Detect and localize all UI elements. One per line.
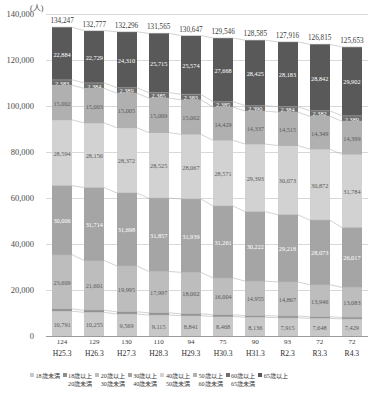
bar-segment: 17,997 [149,271,169,312]
segment-value-label: 23,609 [53,278,70,285]
segment-value-label: 13,946 [311,297,328,304]
sub-count-label: 129 [89,338,100,346]
bar-column: 25,5742,38315,00228,06731,93918,0028,841 [181,36,201,336]
bar-segment: 28,842 [310,44,330,110]
segment-value-label: 29,902 [343,78,360,85]
bar-column: 22,8842,38315,00228,59430,00623,60910,79… [52,27,72,336]
bar-segment: 28,571 [213,140,233,206]
legend-label-top: 18歳未満 [36,372,60,380]
sub-count-label: 124 [57,338,68,346]
segment-value-label: 28,842 [311,74,328,81]
bar-segment: 30,222 [245,212,265,282]
segment-value-label: 28,156 [86,152,103,159]
legend-item[interactable]: 18歳未満 [30,372,60,380]
segment-value-label: 29,393 [247,174,264,181]
legend-item[interactable]: 50歳以上60歳未満 [193,372,223,388]
sub-count-label: 72 [348,338,355,346]
segment-value-label: 7,429 [345,324,359,331]
bar-segment: 29,393 [245,144,265,212]
y-axis-tick-label: 60,000 [0,193,34,203]
segment-value-label: 14,515 [279,125,296,132]
legend-item[interactable]: 20歳以上30歳未満 [95,372,125,388]
bar-total-label: 134,247 [50,17,73,25]
bar-segment: 15,002 [52,85,72,120]
segment-value-label: 9,569 [119,322,133,329]
x-axis-tick-label: H26.3 [85,349,104,358]
segment-value-label: 7,915 [280,323,294,330]
bar-segment: 22,729 [84,31,104,83]
y-axis-tick-label: 40,000 [0,239,34,249]
bar-segment: 15,005 [117,93,137,128]
segment-value-label: 28,372 [118,157,135,164]
segment-value-label: 10,255 [86,321,103,328]
legend-label-top: 40歳以上 [166,372,190,380]
bar-column: 22,7292,38415,00328,15631,71421,60110,25… [84,31,104,336]
sub-count-label: 75 [220,338,227,346]
segment-value-label: 15,002 [53,99,70,106]
bar-column: 28,8422,38214,34930,87228,07313,9467,648 [310,44,330,336]
bar-segment: 18,002 [181,272,201,313]
segment-value-label: 25,715 [150,60,167,67]
segment-value-label: 28,594 [53,149,70,156]
bar-segment: 27,668 [213,38,233,102]
legend-item[interactable]: 65歳以上 [258,372,288,380]
bar-segment: 15,002 [181,100,201,135]
bar-segment: 9,115 [149,315,169,336]
x-axis-tick-label: H25.3 [53,349,72,358]
bar-segment: 30,006 [52,186,72,255]
legend-item[interactable]: 60歳以上65歳未満 [226,372,256,388]
legend-label-top: 18歳以上 [68,372,92,380]
legend-item[interactable]: 40歳以上50歳未満 [160,372,190,388]
legend-swatch-icon [30,373,34,377]
bar-total-label: 132,777 [83,21,106,29]
gridline [46,14,368,15]
segment-value-label: 30,006 [53,217,70,224]
legend-label: 18歳以上20歳未満 [68,372,92,388]
bar-segment: 23,609 [52,255,72,309]
y-axis-tick-label: 0 [0,331,34,341]
legend-label: 60歳以上65歳未満 [231,372,255,388]
segment-value-label: 28,067 [182,163,199,170]
bar-segment: 8,136 [245,317,265,336]
segment-value-label: 27,668 [214,66,231,73]
y-axis-tick-label: 140,000 [0,9,34,19]
sub-count-label: 90 [252,338,259,346]
bar-segment: 7,429 [342,319,362,336]
plot-area: 140,000120,000100,00080,00060,00040,0002… [46,14,368,336]
legend-label-top: 65歳以上 [264,372,288,380]
segment-value-label: 28,525 [150,162,167,169]
bar-segment: 14,337 [245,111,265,144]
bar-total-label: 131,565 [147,23,170,31]
x-axis-tick-label: H29.3 [182,349,201,358]
bar-segment: 15,009 [149,98,169,133]
segment-value-label: 14,337 [247,124,264,131]
bar-segment: 14,515 [278,112,298,145]
bar-column: 25,7152,38515,00928,52531,85717,9979,115 [149,33,169,336]
segment-value-label: 31,261 [214,239,231,246]
x-axis-tick-label: R2.3 [280,349,295,358]
gridline [46,336,368,337]
bar-segment: 13,083 [342,287,362,317]
legend-label: 65歳以上 [264,372,288,380]
segment-value-label: 13,083 [343,299,360,306]
segment-value-label: 31,939 [182,232,199,239]
segment-value-label: 8,841 [184,322,198,329]
segment-value-label: 22,729 [86,53,103,60]
bar-total-label: 132,296 [115,22,138,30]
segment-value-label: 14,429 [214,120,231,127]
bar-segment: 30,872 [310,149,330,220]
bar-segment: 10,255 [84,312,104,336]
bar-segment: 28,183 [278,42,298,107]
y-axis-tick-label: 80,000 [0,147,34,157]
segment-value-label: 15,003 [86,102,103,109]
legend-label-bottom: 50歳未満 [166,380,190,388]
bar-segment: 25,574 [181,36,201,95]
segment-value-label: 15,002 [182,114,199,121]
legend-item[interactable]: 18歳以上20歳未満 [63,372,93,388]
bar-segment: 31,939 [181,199,201,272]
segment-value-label: 22,884 [53,50,70,57]
segment-value-label: 8,136 [248,323,262,330]
legend-item[interactable]: 30歳以上40歳未満 [128,372,158,388]
bar-segment: 28,594 [52,120,72,186]
segment-value-label: 31,714 [86,221,103,228]
